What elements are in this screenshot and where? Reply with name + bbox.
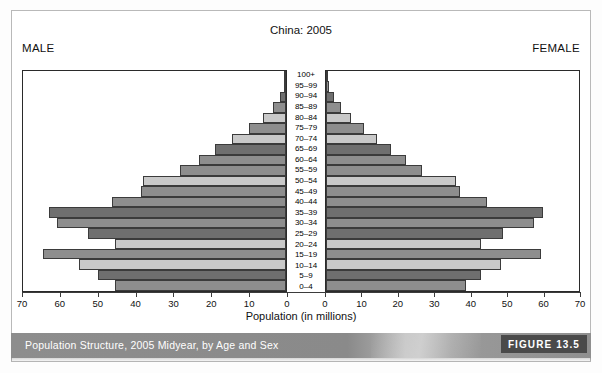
bar-female-80-84 bbox=[326, 113, 351, 123]
bar-male-65-69 bbox=[215, 144, 286, 154]
figure-page: China: 2005 MALE FEMALE 100+95–9990–9485… bbox=[0, 0, 602, 373]
bar-female-100plus bbox=[326, 71, 328, 81]
age-label-5-9: 5–9 bbox=[287, 271, 325, 282]
pyramid-row bbox=[326, 197, 579, 207]
x-tick bbox=[434, 292, 435, 297]
pyramid-row bbox=[326, 186, 579, 196]
bar-female-60-64 bbox=[326, 155, 406, 165]
x-tick bbox=[98, 292, 99, 297]
bar-male-15-19 bbox=[43, 249, 286, 259]
pyramid-row bbox=[23, 228, 286, 238]
bar-male-0-4 bbox=[115, 280, 286, 290]
pyramid-row bbox=[23, 113, 286, 123]
age-label-100plus: 100+ bbox=[287, 70, 325, 81]
bar-male-80-84 bbox=[263, 113, 286, 123]
bar-female-5-9 bbox=[326, 270, 481, 280]
pyramid-row bbox=[326, 270, 579, 280]
pyramid-row bbox=[23, 270, 286, 280]
bar-female-45-49 bbox=[326, 186, 460, 196]
x-tick bbox=[580, 292, 581, 297]
x-tick bbox=[211, 292, 212, 297]
x-tick-label: 70 bbox=[17, 298, 28, 309]
bar-female-65-69 bbox=[326, 144, 391, 154]
pyramid-row bbox=[23, 155, 286, 165]
pyramid-row bbox=[326, 113, 579, 123]
pyramid-row bbox=[326, 249, 579, 259]
pyramid-row bbox=[23, 207, 286, 217]
age-label-20-24: 20–24 bbox=[287, 239, 325, 250]
bar-male-20-24 bbox=[115, 239, 286, 249]
pyramid-row bbox=[23, 92, 286, 102]
bar-male-60-64 bbox=[199, 155, 286, 165]
x-tick-label: 40 bbox=[130, 298, 141, 309]
bar-female-90-94 bbox=[326, 92, 334, 102]
pyramid-row bbox=[23, 134, 286, 144]
x-tick-label: 20 bbox=[393, 298, 404, 309]
age-group-axis: 100+95–9990–9485–8980–8475–7970–7465–696… bbox=[287, 70, 325, 292]
x-tick bbox=[136, 292, 137, 297]
bar-female-35-39 bbox=[326, 207, 543, 217]
age-label-95-99: 95–99 bbox=[287, 81, 325, 92]
x-tick-label: 10 bbox=[244, 298, 255, 309]
age-label-45-49: 45–49 bbox=[287, 186, 325, 197]
pyramid-row bbox=[23, 280, 286, 290]
pyramid-row bbox=[23, 144, 286, 154]
pyramid-row bbox=[326, 259, 579, 269]
female-side-label: FEMALE bbox=[532, 42, 580, 54]
chart-title: China: 2005 bbox=[0, 24, 602, 36]
bar-male-55-59 bbox=[180, 165, 286, 175]
pyramid-row bbox=[326, 92, 579, 102]
pyramid-row bbox=[23, 259, 286, 269]
age-label-65-69: 65–69 bbox=[287, 144, 325, 155]
bar-male-5-9 bbox=[98, 270, 286, 280]
pyramid-row bbox=[326, 280, 579, 290]
bar-male-70-74 bbox=[232, 134, 286, 144]
x-tick-label: 50 bbox=[92, 298, 103, 309]
x-tick-label: 30 bbox=[168, 298, 179, 309]
x-tick bbox=[287, 292, 288, 297]
pyramid-row bbox=[326, 134, 579, 144]
pyramid-row bbox=[326, 71, 579, 81]
pyramid-row bbox=[23, 218, 286, 228]
bar-female-0-4 bbox=[326, 280, 466, 290]
bar-female-20-24 bbox=[326, 239, 481, 249]
female-bars-panel bbox=[325, 70, 580, 292]
caption-shadow bbox=[11, 358, 591, 362]
pyramid-row bbox=[23, 239, 286, 249]
pyramid-row bbox=[326, 123, 579, 133]
bar-male-25-29 bbox=[88, 228, 286, 238]
bar-male-85-89 bbox=[273, 102, 286, 112]
bar-female-70-74 bbox=[326, 134, 377, 144]
pyramid-row bbox=[326, 207, 579, 217]
bar-female-85-89 bbox=[326, 102, 341, 112]
x-tick bbox=[507, 292, 508, 297]
pyramid-row bbox=[23, 123, 286, 133]
age-label-25-29: 25–29 bbox=[287, 229, 325, 240]
bar-female-50-54 bbox=[326, 176, 456, 186]
bar-female-15-19 bbox=[326, 249, 541, 259]
x-tick-label: 60 bbox=[538, 298, 549, 309]
x-tick bbox=[22, 292, 23, 297]
pyramid-row bbox=[326, 165, 579, 175]
age-label-60-64: 60–64 bbox=[287, 155, 325, 166]
x-tick-label: 0 bbox=[322, 298, 327, 309]
bar-male-95-99 bbox=[284, 81, 286, 91]
x-tick-label: 70 bbox=[575, 298, 586, 309]
age-label-10-14: 10–14 bbox=[287, 260, 325, 271]
x-tick-label: 10 bbox=[356, 298, 367, 309]
age-label-90-94: 90–94 bbox=[287, 91, 325, 102]
bar-female-25-29 bbox=[326, 228, 503, 238]
bar-male-35-39 bbox=[49, 207, 286, 217]
age-label-0-4: 0–4 bbox=[287, 282, 325, 293]
pyramid-row bbox=[23, 165, 286, 175]
x-tick bbox=[60, 292, 61, 297]
pyramid-row bbox=[326, 81, 579, 91]
x-tick-label: 30 bbox=[429, 298, 440, 309]
age-label-75-79: 75–79 bbox=[287, 123, 325, 134]
x-tick-label: 0 bbox=[284, 298, 289, 309]
bar-male-75-79 bbox=[249, 123, 286, 133]
pyramid-row bbox=[23, 102, 286, 112]
bar-female-95-99 bbox=[326, 81, 329, 91]
bar-male-90-94 bbox=[280, 92, 286, 102]
x-tick bbox=[325, 292, 326, 297]
